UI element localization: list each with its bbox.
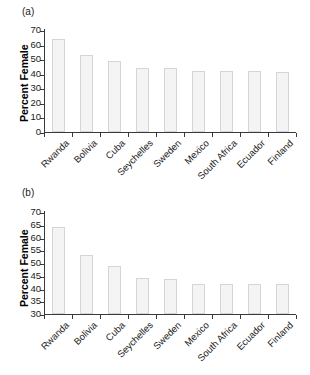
y-tick-label: 20 [30,98,41,108]
panel-label-a: (a) [22,6,34,17]
y-axis-line-b [44,211,45,315]
bar [164,68,177,132]
figure: (a) Percent Female 010203040506070 Rwand… [0,0,310,375]
y-tick-label: 65 [30,220,41,230]
y-tick-label: 50 [30,258,41,268]
bar [192,284,205,314]
y-tick-label: 60 [30,233,41,243]
bar [276,284,289,314]
bar [80,255,93,314]
bar [108,266,121,314]
y-tick-label: 30 [30,83,41,93]
bar [164,279,177,314]
y-tick-label: 70 [30,25,41,35]
bar [136,278,149,314]
y-axis-label-b: Percent Female [18,229,30,307]
plot-area-b: 303540455055606570 [44,213,300,315]
y-tick-label: 45 [30,271,41,281]
bar [52,227,65,314]
bar [136,68,149,132]
y-tick-label: 40 [30,284,41,294]
chart-panel-b: (b) Percent Female 303540455055606570 Rw… [0,185,310,375]
x-axis-labels-b: RwandaBoliviaCubaSeychellesSwedenMexicoS… [0,316,310,366]
plot-area-a: 010203040506070 [44,31,300,133]
y-tick-label: 50 [30,54,41,64]
bar [248,71,261,132]
y-tick-label: 70 [30,207,41,217]
panel-label-b: (b) [22,187,34,198]
y-tick-label: 55 [30,245,41,255]
bar [108,61,121,132]
bar [220,284,233,314]
bar [52,39,65,132]
y-tick-label: 40 [30,69,41,79]
y-axis-label-a: Percent Female [18,44,30,122]
bar [248,284,261,314]
bar [220,71,233,132]
bar [276,72,289,132]
y-tick-label: 10 [30,112,41,122]
y-tick-label: 35 [30,296,41,306]
x-axis-labels-a: RwandaBoliviaCubaSeychellesSwedenMexicoS… [0,134,310,184]
y-tick-label: 60 [30,40,41,50]
x-axis-line-a [44,132,296,133]
x-axis-category-label: Rwanda [0,320,71,375]
chart-panel-a: (a) Percent Female 010203040506070 Rwand… [0,0,310,188]
y-axis-line-a [44,29,45,133]
bar [80,55,93,132]
bar [192,71,205,132]
x-axis-line-b [44,314,296,315]
